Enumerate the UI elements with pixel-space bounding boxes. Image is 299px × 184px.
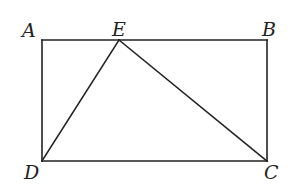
figure-canvas: A E B D C xyxy=(0,0,299,184)
label-e: E xyxy=(111,18,126,40)
label-a: A xyxy=(20,19,36,41)
geometry-figure: A E B D C xyxy=(0,0,299,184)
segment-de xyxy=(42,40,119,161)
label-b: B xyxy=(261,18,276,40)
segment-ec xyxy=(119,40,267,161)
label-c: C xyxy=(264,161,279,183)
label-d: D xyxy=(23,161,39,183)
